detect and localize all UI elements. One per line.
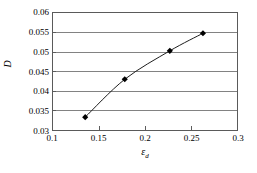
x-axis-tick-label: 0.2 [139, 134, 150, 143]
x-axis-title: εd [52, 147, 238, 161]
y-axis-tick-label: 0.045 [29, 67, 49, 76]
y-axis-tick-label: 0.035 [29, 107, 49, 116]
y-axis-tick-label: 0.055 [29, 27, 49, 36]
plot-area [52, 12, 238, 131]
x-axis-title-subscript: d [145, 152, 149, 160]
x-axis-tick-label: 0.25 [184, 134, 200, 143]
y-axis-tick-label: 0.05 [33, 47, 49, 56]
data-point-marker [167, 48, 173, 54]
data-line [85, 33, 203, 117]
y-axis-tick-labels: 0.060.0550.050.0450.040.0350.03 [0, 12, 49, 131]
x-axis-tick-labels: 0.10.150.20.250.3 [52, 134, 238, 146]
x-axis-tick-label: 0.15 [91, 134, 107, 143]
data-series-layer [53, 13, 237, 130]
x-axis-tick-label: 0.1 [46, 134, 57, 143]
y-axis-tick-label: 0.04 [33, 87, 49, 96]
y-axis-tick-label: 0.06 [33, 8, 49, 17]
chart-figure: 0.060.0550.050.0450.040.0350.03 D 0.10.1… [0, 0, 257, 173]
y-axis-title: D [3, 60, 13, 67]
data-point-marker [200, 30, 206, 36]
x-axis-tick-label: 0.3 [232, 134, 243, 143]
